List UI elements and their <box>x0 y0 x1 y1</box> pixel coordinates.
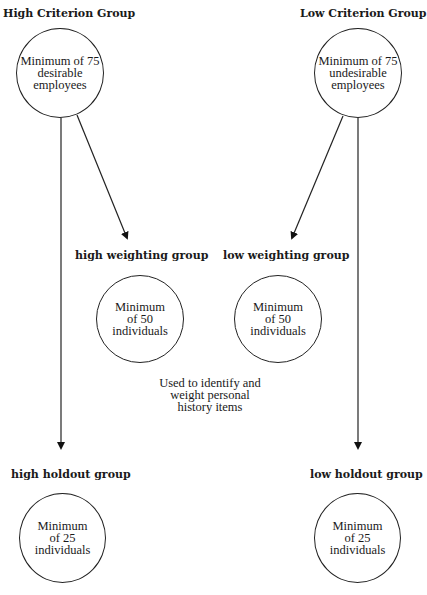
low-criterion-group-title: Low Criterion Group <box>300 7 427 20</box>
low-weighting-circle: Minimum of 50 individuals <box>234 275 322 363</box>
high-criterion-group-title: High Criterion Group <box>3 7 135 20</box>
arrow-low-to-weighting <box>292 116 343 238</box>
circle-line: individuals <box>112 325 168 337</box>
high-holdout-group-title: high holdout group <box>11 468 131 481</box>
arrow-high-to-weighting <box>77 115 127 238</box>
circle-line: employees <box>20 79 99 91</box>
high-weighting-circle: Minimum of 50 individuals <box>96 275 184 363</box>
low-criterion-circle: Minimum of 75 undesirable employees <box>314 28 402 118</box>
note-line: history items <box>140 401 280 413</box>
weighting-note: Used to identify and weight personal his… <box>140 377 280 413</box>
low-holdout-circle: Minimum of 25 individuals <box>314 493 401 583</box>
high-criterion-circle: Minimum of 75 desirable employees <box>16 28 104 118</box>
low-holdout-group-title: low holdout group <box>310 468 423 481</box>
circle-line: employees <box>318 79 397 91</box>
high-weighting-group-title: high weighting group <box>75 249 208 262</box>
circle-line: individuals <box>330 544 386 556</box>
circle-line: individuals <box>250 325 306 337</box>
circle-line: individuals <box>35 544 91 556</box>
high-holdout-circle: Minimum of 25 individuals <box>19 493 106 583</box>
low-weighting-group-title: low weighting group <box>223 249 349 262</box>
